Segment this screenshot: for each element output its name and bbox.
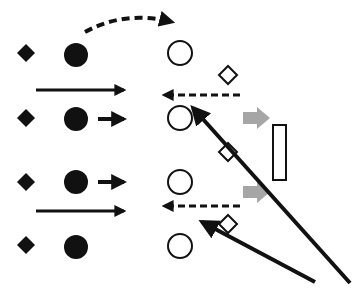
open-diamond-icon (219, 66, 237, 84)
diagram-canvas (0, 0, 361, 296)
open-circle-icon (168, 41, 192, 65)
dashed-curved-arrow-icon (85, 18, 172, 32)
open-circle-icon (168, 234, 192, 258)
filled-circle-icon (64, 170, 88, 194)
diagonal-arrow-icon (202, 222, 315, 282)
filled-diamond-icon (17, 236, 35, 254)
filled-circle-icon (64, 43, 88, 67)
filled-circle-icon (64, 235, 88, 259)
filled-circle-icon (64, 107, 88, 131)
gray-block-arrow-icon (243, 107, 270, 129)
open-circle-icon (168, 170, 192, 194)
open-rectangle (273, 125, 286, 180)
filled-diamond-icon (17, 44, 35, 62)
filled-diamond-icon (17, 109, 35, 127)
filled-diamond-icon (17, 173, 35, 191)
open-circle-icon (168, 106, 192, 130)
